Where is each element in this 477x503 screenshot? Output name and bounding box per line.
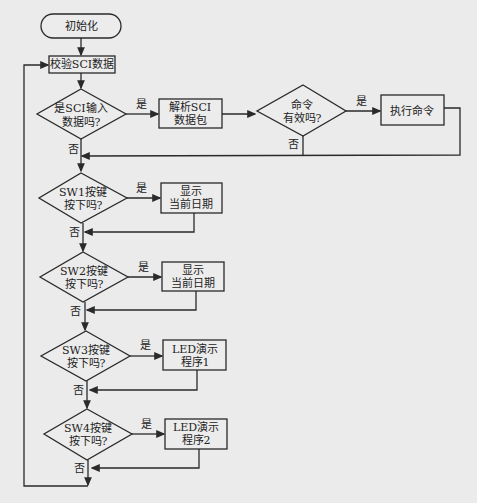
sw2-decision-label-1: SW2按键	[60, 264, 108, 278]
sw2-action-label-2: 当前日期	[171, 276, 215, 290]
sw2-decision-label-2: 按下吗?	[65, 277, 104, 291]
sci-yes-label: 是	[136, 98, 147, 111]
sw3-decision-label-2: 按下吗?	[67, 356, 106, 370]
sw3-yes-label: 是	[140, 339, 151, 352]
cmd-yes-label: 是	[356, 95, 367, 108]
sw4-decision-label-2: 按下吗?	[69, 434, 108, 448]
sw2-no-label: 否	[70, 305, 81, 318]
sw3-action-label-1: LED演示	[172, 342, 218, 356]
sw4-action-label-1: LED演示	[173, 420, 219, 434]
sw1-action-label-1: 显示	[180, 185, 202, 198]
sw1-yes-label: 是	[136, 182, 147, 195]
parse-label-1: 解析SCI	[169, 100, 211, 114]
parse-label-2: 数据包	[174, 113, 207, 127]
sw4-action-label-2: 程序2	[182, 433, 211, 447]
sw1-decision-label-1: SW1按键	[59, 185, 107, 199]
start-label: 初始化	[65, 19, 98, 33]
exec-label: 执行命令	[390, 104, 434, 118]
sw4-yes-label: 是	[141, 418, 152, 431]
cmd-no-label: 否	[288, 138, 299, 151]
sw1-action-label-2: 当前日期	[169, 197, 213, 211]
check-sci-label: 校验SCI数据	[50, 57, 114, 71]
cmd-decision-label-2: 有效吗?	[283, 111, 322, 125]
sw2-yes-label: 是	[138, 261, 149, 274]
sci-no-label: 否	[68, 143, 79, 156]
cmd-decision-label-1: 命令	[291, 98, 313, 112]
sw3-decision-label-1: SW3按键	[62, 343, 110, 357]
sw3-action-label-2: 程序1	[181, 355, 210, 369]
sw1-decision-label-2: 按下吗?	[64, 198, 103, 212]
sci-decision-label-2: 数据吗?	[62, 115, 101, 129]
sw1-no-label: 否	[69, 226, 80, 239]
sci-decision-label-1: 是SCI输入	[54, 101, 107, 115]
sw3-no-label: 否	[73, 384, 84, 397]
sw4-no-label: 否	[74, 462, 85, 475]
flowchart: 初始化 校验SCI数据 是SCI输入 数据吗? 解析SCI 数据包 命令 有效吗…	[0, 0, 477, 503]
sw2-action-label-1: 显示	[182, 264, 204, 277]
sw4-decision-label-1: SW4按键	[64, 421, 112, 435]
